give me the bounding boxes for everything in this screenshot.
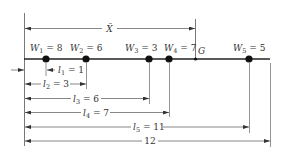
svg-text:12: 12 (144, 136, 155, 146)
weight-label-3: W3 = 3 (125, 43, 158, 55)
svg-text:l4 = 7: l4 = 7 (83, 108, 109, 120)
distance-l5: l5 = 11 (25, 122, 249, 134)
weight-point-3 (145, 55, 152, 62)
weight-label-1: W1 = 8 (30, 43, 63, 55)
svg-text:l2 = 3: l2 = 3 (43, 79, 69, 91)
weight-label-2: W2 = 6 (70, 43, 103, 55)
svg-text:l1 = 1: l1 = 1 (58, 65, 84, 77)
weight-label-5: W5 = 5 (233, 43, 266, 55)
xbar-label: X̄ (105, 23, 113, 34)
distance-total: 12 (25, 136, 270, 146)
weight-point-5 (245, 55, 252, 62)
xbar-dimension: X̄ (25, 23, 195, 34)
weight-point-4 (165, 55, 172, 62)
weight-label-4: W4 = 7 (164, 43, 197, 55)
svg-text:l3 = 6: l3 = 6 (73, 94, 99, 106)
centroid-point (194, 57, 197, 60)
centroid-label: G (198, 46, 205, 56)
distance-l3: l3 = 6 (25, 94, 149, 106)
svg-text:l5 = 11: l5 = 11 (133, 122, 165, 134)
distance-l1: l1 = 1 (47, 65, 84, 77)
centroid-beam-diagram: X̄ W1 = 8 W2 = 6 W3 = 3 W4 = 7 W5 = 5 G … (0, 0, 281, 152)
weight-point-2 (82, 55, 89, 62)
distance-l2: l2 = 3 (25, 79, 86, 91)
weight-point-1 (42, 55, 49, 62)
distance-l4: l4 = 7 (25, 108, 169, 120)
